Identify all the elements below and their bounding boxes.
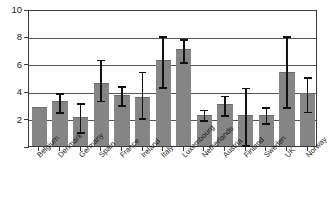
error-bar bbox=[121, 87, 123, 106]
error-bar bbox=[286, 37, 288, 108]
error-bar bbox=[100, 60, 102, 101]
error-bar bbox=[162, 37, 164, 88]
error-bar-cap bbox=[139, 118, 147, 120]
error-bar-cap bbox=[139, 72, 147, 74]
error-bar-cap bbox=[262, 123, 270, 125]
y-tick-mark bbox=[24, 37, 29, 38]
error-bar-cap bbox=[97, 101, 105, 103]
y-tick-mark bbox=[24, 64, 29, 65]
bar-group bbox=[300, 11, 315, 146]
bar-group bbox=[259, 11, 274, 146]
y-tick-mark bbox=[24, 119, 29, 120]
y-tick-mark bbox=[24, 10, 29, 11]
bar-group bbox=[238, 11, 253, 146]
error-bar-cap bbox=[159, 36, 167, 38]
y-axis-line bbox=[28, 10, 29, 148]
error-bar-cap bbox=[180, 62, 188, 64]
error-bar-cap bbox=[283, 107, 291, 109]
y-tick-label: 2 bbox=[2, 115, 22, 124]
y-tick-label: 8 bbox=[2, 32, 22, 41]
error-bar-cap bbox=[97, 60, 105, 62]
error-bar bbox=[80, 104, 82, 133]
error-bar bbox=[307, 78, 309, 112]
y-tick-label: 6 bbox=[2, 60, 22, 69]
bar-group bbox=[52, 11, 67, 146]
y-tick-label: 4 bbox=[2, 87, 22, 96]
error-bar-cap bbox=[283, 36, 291, 38]
bar-group bbox=[114, 11, 129, 146]
error-bar-cap bbox=[221, 96, 229, 98]
error-bar-cap bbox=[77, 103, 85, 105]
error-bar-cap bbox=[200, 110, 208, 112]
plot-area bbox=[28, 10, 317, 147]
error-bar-cap bbox=[180, 39, 188, 41]
bar-group bbox=[73, 11, 88, 146]
bar-group bbox=[94, 11, 109, 146]
error-bar-cap bbox=[304, 77, 312, 79]
error-bar-cap bbox=[304, 112, 312, 114]
error-bar bbox=[183, 40, 185, 63]
error-bar-cap bbox=[262, 107, 270, 109]
error-bar bbox=[266, 108, 268, 124]
error-bar bbox=[245, 88, 247, 146]
error-bar-cap bbox=[200, 120, 208, 122]
error-bar-cap bbox=[56, 112, 64, 114]
bar-group bbox=[156, 11, 171, 146]
error-bar-cap bbox=[118, 86, 126, 88]
error-bar-cap bbox=[221, 115, 229, 117]
bar-group bbox=[135, 11, 150, 146]
bars-layer bbox=[29, 11, 316, 146]
error-bar bbox=[142, 73, 144, 120]
bar-group bbox=[176, 11, 191, 146]
error-bar-cap bbox=[56, 93, 64, 95]
bar bbox=[32, 107, 47, 146]
y-tick-mark bbox=[24, 147, 29, 148]
error-bar bbox=[224, 97, 226, 116]
error-bar-cap bbox=[118, 105, 126, 107]
error-bar-cap bbox=[159, 87, 167, 89]
bar-group bbox=[32, 11, 47, 146]
bar-group bbox=[279, 11, 294, 146]
error-bar bbox=[59, 94, 61, 113]
y-tick-label: 10 bbox=[2, 5, 22, 14]
error-bar-cap bbox=[242, 88, 250, 90]
y-tick-mark bbox=[24, 92, 29, 93]
